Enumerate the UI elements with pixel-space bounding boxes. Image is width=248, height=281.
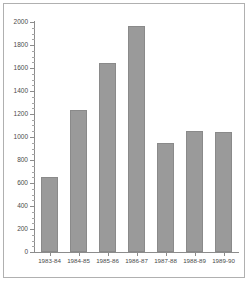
y-axis-minor-tick: [32, 131, 35, 132]
y-axis-minor-tick: [32, 97, 35, 98]
x-axis-tick-label: 1988-89: [180, 258, 209, 264]
y-axis-minor-tick: [32, 235, 35, 236]
y-axis-tick-label: 400: [0, 203, 28, 210]
y-axis-minor-tick: [32, 125, 35, 126]
y-axis-minor-tick: [32, 143, 35, 144]
y-axis-tick: [30, 206, 35, 207]
y-axis-minor-tick: [32, 218, 35, 219]
y-axis-tick: [30, 160, 35, 161]
bar: [99, 63, 116, 252]
x-axis-tick: [50, 252, 51, 256]
y-axis-minor-tick: [32, 246, 35, 247]
y-axis-minor-tick: [32, 166, 35, 167]
bar: [157, 143, 174, 252]
y-axis-tick-label: 2000: [0, 19, 28, 26]
x-axis-tick-label: 1986-87: [122, 258, 151, 264]
y-axis-tick: [30, 45, 35, 46]
bar: [186, 131, 203, 252]
y-axis-minor-tick: [32, 223, 35, 224]
y-axis-tick-label: 800: [0, 157, 28, 164]
y-axis-tick: [30, 114, 35, 115]
x-axis-tick-label: 1984-85: [64, 258, 93, 264]
bar: [128, 26, 145, 252]
y-axis-tick: [30, 68, 35, 69]
y-axis-minor-tick: [32, 28, 35, 29]
y-axis-tick: [30, 252, 35, 253]
y-axis-minor-tick: [32, 80, 35, 81]
y-axis-minor-tick: [32, 212, 35, 213]
x-axis-tick: [224, 252, 225, 256]
y-axis-tick-label: 1000: [0, 134, 28, 141]
x-axis-tick: [79, 252, 80, 256]
x-axis-tick: [166, 252, 167, 256]
chart-screenshot: 0200400600800100012001400160018002000 19…: [0, 0, 248, 281]
y-axis-minor-tick: [32, 85, 35, 86]
x-axis-tick-label: 1983-84: [35, 258, 64, 264]
y-axis-minor-tick: [32, 74, 35, 75]
bar-chart: 0200400600800100012001400160018002000 19…: [0, 0, 248, 281]
y-axis-minor-tick: [32, 103, 35, 104]
y-axis-minor-tick: [32, 51, 35, 52]
bar: [215, 132, 232, 252]
y-axis-tick-label: 1200: [0, 111, 28, 118]
y-axis-minor-tick: [32, 120, 35, 121]
y-axis-minor-tick: [32, 154, 35, 155]
x-axis-tick-label: 1989-90: [209, 258, 238, 264]
y-axis-minor-tick: [32, 62, 35, 63]
x-axis-tick: [108, 252, 109, 256]
y-axis-tick: [30, 137, 35, 138]
x-axis-tick: [195, 252, 196, 256]
x-axis-tick: [137, 252, 138, 256]
y-axis-tick: [30, 183, 35, 184]
y-axis-minor-tick: [32, 200, 35, 201]
y-axis-minor-tick: [32, 241, 35, 242]
y-axis-minor-tick: [32, 108, 35, 109]
y-axis-tick-label: 600: [0, 180, 28, 187]
y-axis-minor-tick: [32, 172, 35, 173]
y-axis-tick: [30, 22, 35, 23]
bar: [70, 110, 87, 252]
y-axis-tick-label: 0: [0, 249, 28, 256]
y-axis-minor-tick: [32, 195, 35, 196]
y-axis-minor-tick: [32, 34, 35, 35]
y-axis-tick: [30, 229, 35, 230]
y-axis-minor-tick: [32, 149, 35, 150]
x-axis-tick-label: 1987-88: [151, 258, 180, 264]
y-axis-tick-label: 1400: [0, 88, 28, 95]
y-axis-tick: [30, 91, 35, 92]
y-axis-minor-tick: [32, 39, 35, 40]
y-axis-minor-tick: [32, 57, 35, 58]
y-axis-minor-tick: [32, 189, 35, 190]
y-axis-tick-label: 200: [0, 226, 28, 233]
x-axis-tick-label: 1985-86: [93, 258, 122, 264]
bar: [41, 177, 58, 252]
y-axis-minor-tick: [32, 177, 35, 178]
y-axis-tick-label: 1600: [0, 65, 28, 72]
y-axis-tick-label: 1800: [0, 42, 28, 49]
